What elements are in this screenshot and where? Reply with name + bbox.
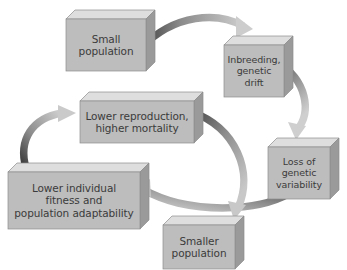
- node-inbreeding-genetic-drift[interactable]: Inbreeding, genetic drift: [224, 36, 293, 97]
- node-loss-of-genetic-variability[interactable]: Loss of genetic variability: [268, 138, 339, 199]
- node-lower-individual-fitness[interactable]: Lower individual fitness and population …: [8, 163, 149, 229]
- arrow-lower-fitness-to-lower-repro: [24, 105, 76, 168]
- node-smaller-population[interactable]: Smaller population: [163, 216, 244, 269]
- node-small-population[interactable]: Small population: [66, 10, 155, 71]
- diagram-canvas: Figure 2 The extinction vortex in small …: [0, 0, 347, 270]
- node-lower-reproduction-higher-mortality[interactable]: Lower reproduction, higher mortality: [80, 92, 203, 143]
